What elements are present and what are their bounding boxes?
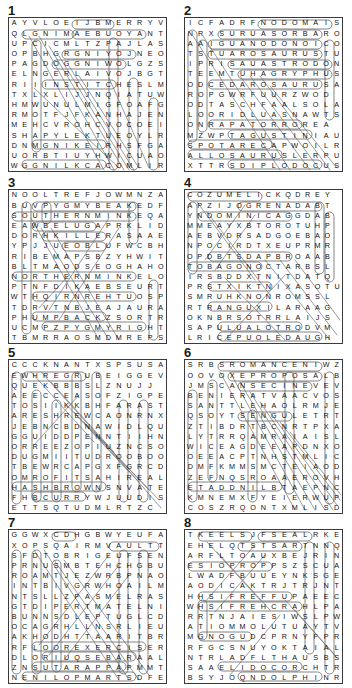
grid-cell[interactable]: R [72,272,82,282]
grid-cell[interactable]: L [224,322,234,332]
grid-cell[interactable]: S [310,49,320,59]
grid-cell[interactable]: S [300,100,310,110]
grid-cell[interactable]: Q [237,673,247,683]
grid-cell[interactable]: E [331,401,342,411]
grid-cell[interactable]: U [216,49,226,59]
grid-cell[interactable]: A [303,251,313,261]
grid-cell[interactable]: T [51,571,61,581]
grid-cell[interactable]: E [145,120,155,130]
grid-cell[interactable]: C [269,421,279,431]
grid-cell[interactable]: W [310,492,320,502]
grid-cell[interactable]: M [93,322,103,332]
grid-cell[interactable]: R [185,612,195,622]
grid-cell[interactable]: R [237,591,247,601]
grid-cell[interactable]: T [279,622,289,632]
grid-cell[interactable]: A [279,442,289,452]
puzzle-grid-6[interactable]: SRBSROMANCENIWZOOVOXEPROPOSALBJMSCANSECI… [184,359,343,514]
grid-cell[interactable]: T [114,601,124,611]
grid-cell[interactable]: E [51,442,61,452]
grid-cell[interactable]: L [322,261,332,271]
grid-cell[interactable]: B [93,28,103,38]
grid-cell[interactable]: T [93,130,103,140]
grid-cell[interactable]: R [216,161,226,171]
grid-cell[interactable]: B [216,421,226,431]
grid-cell[interactable]: O [185,79,195,89]
grid-cell[interactable]: U [82,370,92,380]
grid-cell[interactable]: D [227,421,237,431]
grid-cell[interactable]: D [300,442,310,452]
grid-cell[interactable]: X [224,282,234,292]
grid-cell[interactable]: M [322,322,332,332]
grid-cell[interactable]: L [244,190,254,200]
grid-cell[interactable]: S [61,79,71,89]
grid-cell[interactable]: K [40,380,50,390]
grid-cell[interactable]: P [258,561,268,571]
grid-cell[interactable]: M [300,18,310,28]
grid-cell[interactable]: E [51,69,61,79]
grid-cell[interactable]: H [155,241,166,251]
grid-cell[interactable]: Z [93,38,103,48]
grid-cell[interactable]: C [214,241,224,251]
grid-cell[interactable]: B [61,421,71,431]
grid-cell[interactable]: I [40,38,50,48]
grid-cell[interactable]: J [114,302,124,312]
grid-cell[interactable]: R [234,241,244,251]
grid-cell[interactable]: T [145,312,155,322]
grid-cell[interactable]: U [9,322,19,332]
grid-cell[interactable]: T [322,282,332,292]
grid-cell[interactable]: F [19,550,29,560]
grid-cell[interactable]: M [258,431,268,441]
grid-cell[interactable]: L [269,161,279,171]
grid-cell[interactable]: T [51,150,61,160]
grid-cell[interactable]: T [82,561,92,571]
grid-cell[interactable]: L [310,612,320,622]
grid-cell[interactable]: T [216,140,226,150]
grid-cell[interactable]: N [185,28,195,38]
grid-cell[interactable]: O [331,38,342,48]
grid-cell[interactable]: R [227,431,237,441]
grid-cell[interactable]: W [93,571,103,581]
grid-cell[interactable]: G [124,370,134,380]
grid-cell[interactable]: L [185,431,195,441]
grid-cell[interactable]: V [30,200,40,210]
grid-cell[interactable]: G [40,622,50,632]
grid-cell[interactable]: R [237,391,247,401]
grid-cell[interactable]: A [293,282,303,292]
grid-cell[interactable]: O [290,120,300,130]
grid-cell[interactable]: A [331,601,342,611]
grid-cell[interactable]: T [227,550,237,560]
grid-cell[interactable]: S [269,130,279,140]
grid-cell[interactable]: H [30,370,40,380]
grid-cell[interactable]: I [114,150,124,160]
grid-cell[interactable]: S [9,550,19,560]
grid-cell[interactable]: I [114,370,124,380]
grid-cell[interactable]: H [103,561,113,571]
grid-cell[interactable]: T [30,503,40,513]
grid-cell[interactable]: S [9,130,19,140]
grid-cell[interactable]: N [93,431,103,441]
grid-cell[interactable]: S [237,411,247,421]
grid-cell[interactable]: O [93,391,103,401]
grid-cell[interactable]: H [103,581,113,591]
grid-cell[interactable]: G [216,89,226,99]
grid-cell[interactable]: O [300,161,310,171]
grid-cell[interactable]: B [134,452,144,462]
grid-cell[interactable]: L [145,79,155,89]
grid-cell[interactable]: J [145,380,155,390]
grid-cell[interactable]: S [82,472,92,482]
grid-cell[interactable]: D [195,79,205,89]
grid-cell[interactable]: H [19,312,29,322]
grid-cell[interactable]: C [145,612,155,622]
grid-cell[interactable]: W [30,221,40,231]
grid-cell[interactable]: P [321,632,331,642]
grid-cell[interactable]: P [195,251,205,261]
puzzle-grid-7[interactable]: GGWXCDHGBWYEUFAXOPSQAIRMVAULTTSFDTOBRIGE… [8,529,167,684]
grid-cell[interactable]: O [290,370,300,380]
grid-cell[interactable]: S [195,673,205,683]
grid-cell[interactable]: T [155,322,166,332]
grid-cell[interactable]: M [237,622,247,632]
grid-cell[interactable]: W [124,241,134,251]
grid-cell[interactable]: Z [145,190,155,200]
grid-cell[interactable]: M [313,241,323,251]
grid-cell[interactable]: J [40,241,50,251]
